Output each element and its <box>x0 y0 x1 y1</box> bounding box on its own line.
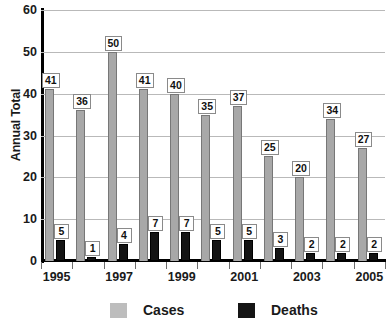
value-label-cases: 40 <box>167 78 185 93</box>
bar-cases <box>295 177 304 261</box>
value-label-deaths: 7 <box>179 216 194 231</box>
x-tick <box>135 262 136 269</box>
x-tick <box>291 262 292 269</box>
x-tick-label: 1997 <box>91 270 147 284</box>
value-label-cases: 34 <box>323 103 341 118</box>
bar-deaths <box>244 240 253 261</box>
plot-area: 0102030405060415361504417407355375253202… <box>41 10 385 261</box>
y-tick-label: 20 <box>3 170 37 184</box>
y-tick-label: 40 <box>3 87 37 101</box>
value-label-deaths: 5 <box>242 224 257 239</box>
bar-deaths <box>56 240 65 261</box>
bar-cases <box>139 89 148 261</box>
x-tick-label: 2003 <box>279 270 335 284</box>
bar-cases <box>108 52 117 261</box>
bar-cases <box>264 156 273 261</box>
y-tick-label: 60 <box>3 3 37 17</box>
bar-deaths <box>337 253 346 261</box>
chart-legend: Cases Deaths <box>0 296 389 331</box>
y-tick-label: 10 <box>3 212 37 226</box>
x-tick <box>197 262 198 269</box>
legend-label-deaths: Deaths <box>271 302 318 318</box>
x-tick <box>354 262 355 269</box>
x-tick <box>104 262 105 269</box>
bar-deaths <box>369 253 378 261</box>
value-label-cases: 20 <box>292 161 310 176</box>
legend-item-cases: Cases <box>110 296 184 324</box>
x-tick <box>41 262 42 269</box>
value-label-cases: 25 <box>261 140 279 155</box>
value-label-cases: 37 <box>230 90 248 105</box>
value-label-cases: 27 <box>355 132 373 147</box>
bar-chart: Annual Total 010203040506041536150441740… <box>0 0 389 331</box>
value-label-deaths: 4 <box>117 228 132 243</box>
gridline <box>41 94 385 95</box>
bar-cases <box>201 115 210 261</box>
x-tick <box>72 262 73 269</box>
bar-deaths <box>119 244 128 261</box>
legend-item-deaths: Deaths <box>238 296 318 324</box>
y-tick-label: 30 <box>3 129 37 143</box>
value-label-cases: 41 <box>42 73 60 88</box>
gridline <box>41 10 385 11</box>
value-label-cases: 35 <box>198 99 216 114</box>
x-tick-label: 2005 <box>341 270 389 284</box>
bar-deaths <box>306 253 315 261</box>
bar-deaths <box>212 240 221 261</box>
value-label-deaths: 1 <box>85 241 100 256</box>
bar-cases <box>233 106 242 261</box>
value-label-deaths: 2 <box>367 237 382 252</box>
x-tick <box>229 262 230 269</box>
bar-deaths <box>181 232 190 261</box>
bar-cases <box>358 148 367 261</box>
value-label-cases: 50 <box>105 36 123 51</box>
value-label-deaths: 5 <box>210 224 225 239</box>
deaths-swatch-icon <box>238 303 255 318</box>
y-axis-title: Annual Total <box>9 65 23 185</box>
value-label-deaths: 7 <box>148 216 163 231</box>
bar-deaths <box>275 248 284 261</box>
x-tick-label: 2001 <box>216 270 272 284</box>
y-tick-label: 50 <box>3 45 37 59</box>
x-tick <box>322 262 323 269</box>
x-tick-label: 1995 <box>29 270 85 284</box>
bar-cases <box>76 110 85 261</box>
value-label-deaths: 3 <box>273 232 288 247</box>
cases-swatch-icon <box>110 303 127 318</box>
x-tick <box>166 262 167 269</box>
value-label-deaths: 2 <box>335 237 350 252</box>
gridline <box>41 52 385 53</box>
bar-cases <box>170 94 179 261</box>
bar-deaths <box>87 257 96 261</box>
value-label-cases: 41 <box>136 73 154 88</box>
bar-cases <box>326 119 335 261</box>
x-tick-label: 1999 <box>154 270 210 284</box>
x-tick <box>260 262 261 269</box>
y-tick-label: 0 <box>3 254 37 268</box>
bar-cases <box>45 89 54 261</box>
legend-label-cases: Cases <box>143 302 184 318</box>
value-label-deaths: 2 <box>304 237 319 252</box>
value-label-cases: 36 <box>73 94 91 109</box>
bar-deaths <box>150 232 159 261</box>
x-tick <box>385 262 386 269</box>
value-label-deaths: 5 <box>54 224 69 239</box>
